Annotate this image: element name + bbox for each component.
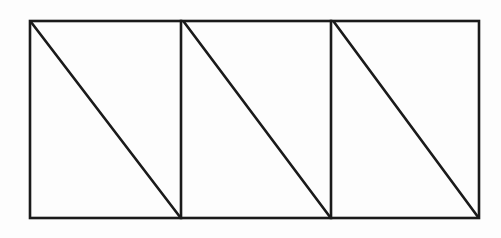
cell-1-diagonal <box>31 22 180 217</box>
outer-rectangle <box>30 21 479 218</box>
cell-2-diagonal <box>184 22 330 217</box>
cell-3-diagonal <box>334 22 478 217</box>
geometric-figure <box>0 0 501 238</box>
figure-canvas <box>0 0 501 238</box>
